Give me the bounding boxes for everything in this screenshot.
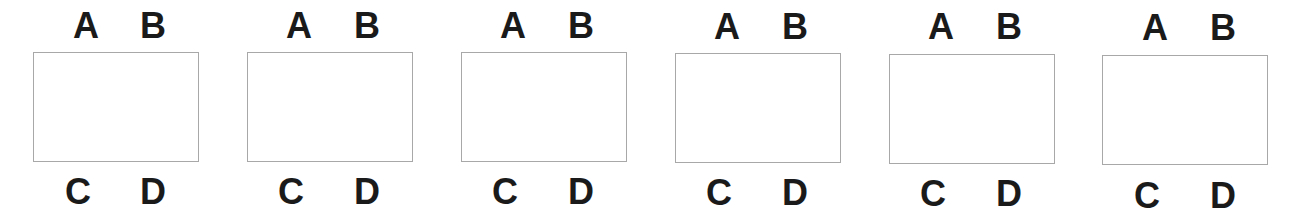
label-a: A (286, 8, 312, 44)
rectangle (247, 52, 413, 162)
label-c: C (706, 175, 732, 211)
label-a: A (928, 9, 954, 45)
rectangle (889, 54, 1055, 164)
rectangle (675, 53, 841, 163)
label-b: B (996, 9, 1022, 45)
label-a: A (500, 8, 526, 44)
label-c: C (278, 174, 304, 210)
label-a: A (1142, 10, 1168, 46)
label-d: D (568, 174, 594, 210)
label-c: C (65, 174, 91, 210)
label-b: B (140, 8, 166, 44)
label-b: B (1210, 10, 1236, 46)
label-a: A (714, 9, 740, 45)
rectangle (33, 52, 199, 162)
panel-4: A B C D (642, 0, 856, 222)
label-c: C (492, 174, 518, 210)
panel-2: A B C D (214, 0, 428, 222)
label-b: B (354, 8, 380, 44)
rectangle (461, 52, 627, 162)
label-a: A (73, 8, 99, 44)
panel-1: A B C D (0, 0, 214, 222)
panel-6: A B C D (1070, 0, 1284, 222)
label-d: D (1210, 178, 1236, 214)
label-b: B (568, 8, 594, 44)
label-b: B (782, 9, 808, 45)
rectangle (1102, 55, 1268, 165)
label-d: D (996, 176, 1022, 212)
panel-3: A B C D (428, 0, 642, 222)
label-c: C (1134, 178, 1160, 214)
panel-5: A B C D (856, 0, 1070, 222)
label-d: D (140, 174, 166, 210)
label-d: D (354, 174, 380, 210)
label-d: D (782, 175, 808, 211)
label-c: C (920, 176, 946, 212)
